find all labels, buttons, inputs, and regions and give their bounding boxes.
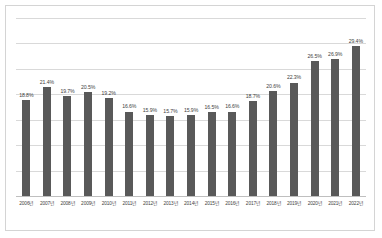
x-axis-tick-label: 2014년: [181, 199, 202, 213]
bar-rect[interactable]: [84, 92, 92, 196]
bar-value-label: 19.7%: [60, 89, 74, 94]
bar-rect[interactable]: [228, 112, 236, 196]
bar-rect[interactable]: [166, 116, 174, 196]
bar-value-label: 18.7%: [246, 94, 260, 99]
bar-series: 18.8%21.4%19.7%20.5%19.2%16.6%15.9%15.7%…: [16, 18, 366, 196]
bar-value-label: 16.6%: [122, 104, 136, 109]
bar-value-label: 15.7%: [163, 109, 177, 114]
bar-rect[interactable]: [290, 83, 298, 196]
bar-rect[interactable]: [269, 91, 277, 196]
x-axis-tick-label: 2016년: [222, 199, 243, 213]
bar-item[interactable]: 16.6%: [119, 18, 140, 196]
x-axis-tick-label: 2019년: [284, 199, 305, 213]
axis-baseline: [16, 196, 366, 197]
bar-item[interactable]: 15.7%: [160, 18, 181, 196]
x-axis-tick-label: 2013년: [160, 199, 181, 213]
bar-rect[interactable]: [352, 46, 360, 196]
bar-value-label: 29.4%: [349, 39, 363, 44]
bar-rect[interactable]: [146, 115, 154, 196]
bar-rect[interactable]: [187, 115, 195, 196]
x-axis-tick-label: 2015년: [201, 199, 222, 213]
bar-rect[interactable]: [311, 61, 319, 196]
bar-rect[interactable]: [63, 96, 71, 196]
bar-item[interactable]: 16.6%: [222, 18, 243, 196]
bar-value-label: 20.5%: [81, 85, 95, 90]
bar-item[interactable]: 18.7%: [243, 18, 264, 196]
bar-item[interactable]: 15.9%: [140, 18, 161, 196]
bar-rect[interactable]: [208, 112, 216, 196]
bar-rect[interactable]: [331, 59, 339, 196]
bar-item[interactable]: 18.8%: [16, 18, 37, 196]
bar-item[interactable]: 20.6%: [263, 18, 284, 196]
bar-item[interactable]: 26.9%: [325, 18, 346, 196]
x-axis-tick-label: 2020년: [304, 199, 325, 213]
bar-item[interactable]: 26.5%: [304, 18, 325, 196]
bar-value-label: 15.9%: [143, 108, 157, 113]
x-axis-tick-label: 2021년: [325, 199, 346, 213]
bar-item[interactable]: 16.5%: [201, 18, 222, 196]
x-axis-tick-label: 2022년: [346, 199, 367, 213]
x-axis-tick-label: 2018년: [263, 199, 284, 213]
bar-item[interactable]: 19.2%: [98, 18, 119, 196]
bar-value-label: 15.9%: [184, 108, 198, 113]
bar-item[interactable]: 15.9%: [181, 18, 202, 196]
bar-value-label: 19.2%: [102, 91, 116, 96]
x-axis-tick-label: 2009년: [78, 199, 99, 213]
x-axis-tick-label: 2017년: [243, 199, 264, 213]
bar-value-label: 16.5%: [205, 105, 219, 110]
bar-rect[interactable]: [249, 101, 257, 196]
bar-item[interactable]: 21.4%: [37, 18, 58, 196]
bar-value-label: 18.8%: [19, 93, 33, 98]
x-axis-tick-label: 2008년: [57, 199, 78, 213]
chart-frame: 18.8%21.4%19.7%20.5%19.2%16.6%15.9%15.7%…: [5, 5, 375, 231]
x-axis-tick-label: 2007년: [37, 199, 58, 213]
x-axis-tick-label: 2012년: [140, 199, 161, 213]
bar-item[interactable]: 20.5%: [78, 18, 99, 196]
bar-rect[interactable]: [125, 112, 133, 196]
bar-item[interactable]: 19.7%: [57, 18, 78, 196]
bar-value-label: 16.6%: [225, 104, 239, 109]
x-axis-tick-label: 2010년: [98, 199, 119, 213]
bar-rect[interactable]: [105, 98, 113, 196]
x-axis-tick-label: 2011년: [119, 199, 140, 213]
bar-value-label: 20.6%: [266, 84, 280, 89]
bar-rect[interactable]: [43, 87, 51, 196]
x-axis-labels: 2006년2007년2008년2009년2010년2011년2012년2013년…: [16, 199, 366, 213]
bar-value-label: 26.5%: [308, 54, 322, 59]
bar-value-label: 22.3%: [287, 75, 301, 80]
bar-rect[interactable]: [22, 100, 30, 196]
bar-value-label: 26.9%: [328, 52, 342, 57]
bar-item[interactable]: 29.4%: [346, 18, 367, 196]
bar-value-label: 21.4%: [40, 80, 54, 85]
x-axis-tick-label: 2006년: [16, 199, 37, 213]
bar-item[interactable]: 22.3%: [284, 18, 305, 196]
